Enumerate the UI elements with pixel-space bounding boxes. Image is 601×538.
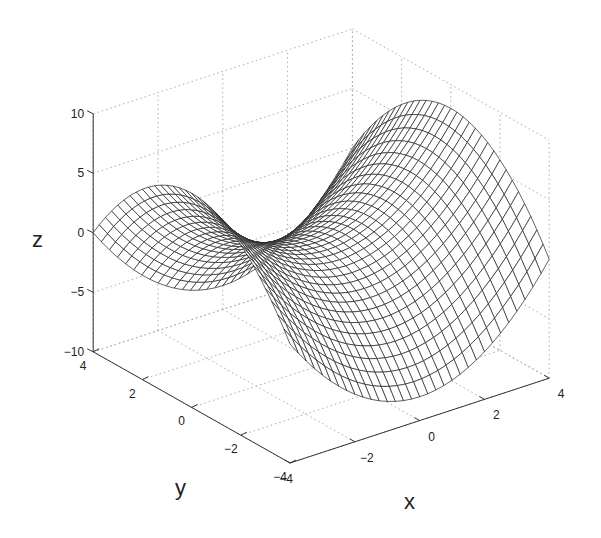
- tick-label: −10: [64, 345, 85, 359]
- tick-label: 4: [558, 387, 565, 401]
- z-axis-label: z: [32, 227, 43, 252]
- tick-label: −4: [273, 470, 287, 484]
- tick-label: 2: [129, 387, 136, 401]
- tick-label: 0: [178, 414, 185, 428]
- tick-label: −2: [224, 442, 238, 456]
- y-axis-label: y: [175, 475, 186, 500]
- x-axis-label: x: [404, 489, 415, 514]
- tick-label: 0: [428, 430, 435, 444]
- tick-label: 10: [71, 107, 85, 121]
- tick-label: −2: [360, 451, 374, 465]
- tick-label: 5: [78, 166, 85, 180]
- tick-label: 4: [80, 359, 87, 373]
- tick-label: 2: [493, 408, 500, 422]
- tick-label: −5: [71, 285, 85, 299]
- tick-label: 0: [78, 226, 85, 240]
- surface-plot: −10−50510−4−2024−4−2024 x y z: [0, 0, 601, 538]
